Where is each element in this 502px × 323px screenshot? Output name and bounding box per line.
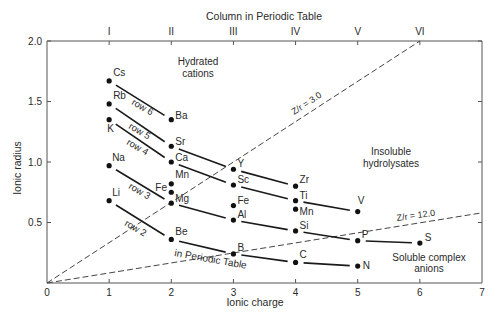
top-axis-title: Column in Periodic Table [206, 10, 322, 22]
x-axis-title: Ionic charge [226, 296, 283, 308]
point-label: Ca [175, 152, 188, 163]
point-label: Fe [155, 182, 167, 193]
point-label: P [362, 229, 369, 240]
point-label: Y [237, 158, 244, 169]
point-label: Li [112, 187, 120, 198]
data-point [417, 240, 422, 245]
point-label: Na [112, 152, 125, 163]
point-label: Mn [175, 169, 189, 180]
point-label: Sc [237, 174, 249, 185]
insoluble-hydrolysates-label: Insoluble [371, 146, 411, 157]
y-tick-label: 2.0 [28, 36, 42, 47]
data-point [169, 190, 174, 195]
row-2-label: row 2 [123, 217, 149, 238]
x-tick-label: 6 [417, 287, 423, 298]
point-label: N [363, 260, 370, 271]
point-label: K [107, 123, 114, 134]
data-point [107, 101, 112, 106]
ionic-potential-chart: 012345670.51.01.52.0IIIIIIIVVVI CsRbKNaL… [0, 0, 502, 323]
top-tick-label: IV [291, 26, 301, 37]
point-label: Ba [175, 110, 188, 121]
data-point [231, 203, 236, 208]
point-label: C [300, 249, 307, 260]
top-tick-label: III [229, 26, 237, 37]
zr-12-label: Z/r = 12.0 [396, 208, 436, 223]
series-segment [241, 221, 287, 229]
top-tick-label: I [108, 26, 111, 37]
point-label: Zr [300, 174, 310, 185]
data-point [169, 144, 174, 149]
zr-3-label: Z/r = 3.0 [290, 90, 324, 117]
soluble-anions-label-2: anions [414, 263, 443, 274]
point-label: V [358, 195, 365, 206]
data-point [355, 263, 360, 268]
y-tick-label: 0.5 [28, 217, 42, 228]
top-tick-label: II [169, 26, 175, 37]
data-point [231, 217, 236, 222]
point-label: Fe [237, 195, 249, 206]
x-tick-label: 1 [106, 287, 112, 298]
hydrated-cations-label-2: cations [182, 68, 214, 79]
data-point [293, 207, 298, 212]
x-tick-label: 2 [169, 287, 175, 298]
series-segment [304, 263, 350, 266]
point-label: Mg [175, 193, 189, 204]
x-tick-label: 5 [355, 287, 361, 298]
data-point [107, 78, 112, 83]
data-point [107, 198, 112, 203]
top-tick-label: V [354, 26, 361, 37]
point-label: Rb [113, 90, 126, 101]
y-axis-title: Ionic radius [11, 141, 23, 195]
top-tick-label: VI [415, 26, 424, 37]
x-tick-label: 0 [44, 287, 50, 298]
data-point [293, 198, 298, 203]
point-label: Be [175, 226, 188, 237]
data-point [107, 163, 112, 168]
data-point [231, 182, 236, 187]
data-point [107, 117, 112, 122]
point-label: Cs [113, 67, 125, 78]
data-point [231, 167, 236, 172]
data-point [355, 238, 360, 243]
y-tick-label: 1.0 [28, 157, 42, 168]
y-tick-label: 1.5 [28, 96, 42, 107]
x-tick-label: 7 [479, 287, 485, 298]
data-point [293, 260, 298, 265]
data-point [169, 201, 174, 206]
point-label: Al [237, 209, 246, 220]
data-point [169, 181, 174, 186]
data-point [293, 184, 298, 189]
data-point [355, 209, 360, 214]
x-tick-label: 4 [293, 287, 299, 298]
point-label: Si [300, 220, 309, 231]
point-label: Sr [175, 136, 186, 147]
point-label: Ti [300, 190, 308, 201]
data-point [231, 251, 236, 256]
soluble-anions-label: Soluble complex [392, 252, 465, 263]
point-label: B [237, 242, 244, 253]
data-point [169, 159, 174, 164]
hydrated-cations-label: Hydrated [178, 56, 219, 67]
data-point [169, 237, 174, 242]
data-point [169, 117, 174, 122]
point-label: Mn [300, 206, 314, 217]
row-3-label: row 3 [127, 180, 153, 201]
series-segment [179, 205, 226, 218]
series-segment [241, 255, 287, 261]
data-point [293, 228, 298, 233]
insoluble-hydrolysates-label-2: hydrolysates [363, 158, 419, 169]
series-segment [366, 241, 412, 243]
row-6-label: row 6 [130, 96, 156, 117]
point-label: S [425, 232, 432, 243]
